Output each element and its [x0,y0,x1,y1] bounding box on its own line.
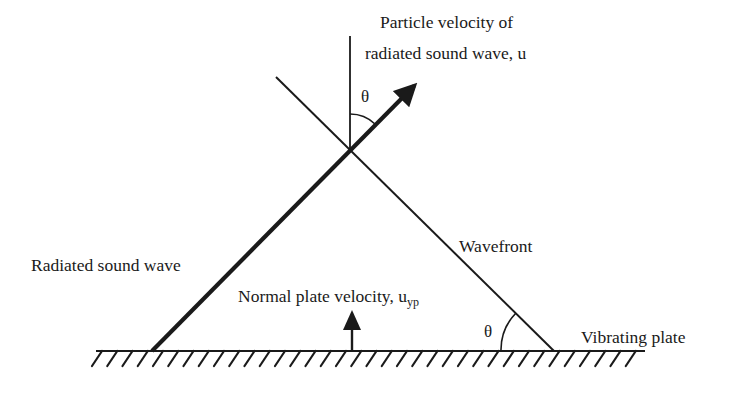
vibrating-plate-label: Vibrating plate [581,327,685,347]
particle-velocity-label-line2: radiated sound wave, u [365,43,526,63]
plate-hatching [92,351,636,366]
radiated-sound-wave-label: Radiated sound wave [31,255,181,275]
arrow-up-icon [343,310,361,330]
particle-velocity-label-line1: Particle velocity of [380,12,513,32]
normal-velocity-arrow [343,310,361,351]
wavefront-label: Wavefront [459,236,532,256]
theta-arc-top [350,114,375,124]
normal-plate-velocity-label: Normal plate velocity, uyp [238,286,419,312]
vibrating-plate [92,351,645,366]
theta-arc-bottom [501,313,516,351]
theta-top-label: θ [361,87,369,107]
normal-plate-velocity-subscript: yp [407,295,419,309]
normal-plate-velocity-text: Normal plate velocity, u [238,286,407,306]
theta-bottom-label: θ [484,322,492,342]
